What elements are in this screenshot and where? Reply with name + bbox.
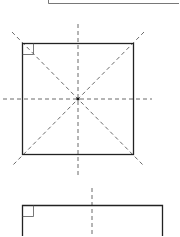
top-partial-rectangle [49, 0, 180, 4]
bottom-rectangle-figure [23, 188, 163, 236]
square-figure [3, 24, 152, 176]
bottom-right-angle-marker [23, 206, 34, 217]
diagram-canvas [0, 0, 179, 236]
right-angle-marker [23, 44, 34, 55]
bottom-rectangle [23, 206, 163, 237]
center-point [76, 97, 79, 100]
